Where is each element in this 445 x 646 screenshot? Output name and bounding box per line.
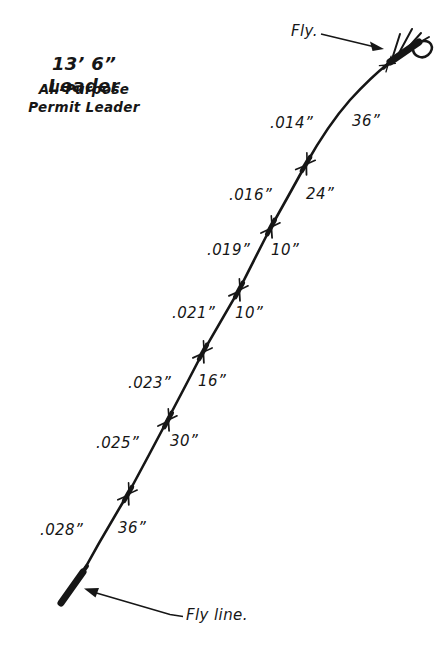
fly-label: Fly. bbox=[291, 22, 318, 40]
blood-knot bbox=[261, 215, 281, 238]
fly-line-label: Fly line. bbox=[186, 606, 248, 624]
blood-knot bbox=[193, 340, 213, 363]
blood-knot bbox=[229, 278, 249, 301]
blood-knot bbox=[158, 408, 178, 431]
diameter-label-028: .028” bbox=[40, 521, 83, 539]
blood-knot bbox=[118, 482, 138, 505]
diagram-subtitle-1: All-Purpose bbox=[16, 81, 152, 98]
fly-line-arrow bbox=[84, 588, 183, 617]
length-label-10-a: 10” bbox=[271, 241, 299, 259]
length-label-36-bot: 36” bbox=[118, 519, 146, 537]
length-label-10-b: 10” bbox=[235, 304, 263, 322]
diameter-label-025: .025” bbox=[96, 434, 139, 452]
diameter-label-016: .016” bbox=[229, 186, 272, 204]
length-label-24: 24” bbox=[306, 185, 334, 203]
diameter-label-023: .023” bbox=[128, 374, 171, 392]
length-label-30: 30” bbox=[170, 432, 198, 450]
length-label-16: 16” bbox=[198, 372, 226, 390]
diameter-label-014: .014” bbox=[270, 114, 313, 132]
fly-illustration bbox=[390, 29, 432, 62]
fly-arrow bbox=[321, 34, 384, 51]
diagram-subtitle-2: Permit Leader bbox=[16, 99, 152, 116]
length-label-36-top: 36” bbox=[352, 112, 380, 130]
leader-diagram: 13’ 6” Leader All-Purpose Permit Leader … bbox=[0, 0, 445, 646]
blood-knot bbox=[296, 152, 317, 175]
diameter-label-021: .021” bbox=[172, 304, 215, 322]
diameter-label-019: .019” bbox=[207, 241, 250, 259]
fly-line-end bbox=[61, 566, 87, 603]
